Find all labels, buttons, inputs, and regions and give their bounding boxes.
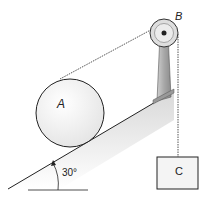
angle-label: 30° xyxy=(62,168,77,178)
cylinder-label: A xyxy=(57,98,65,110)
pulley-label: B xyxy=(175,11,182,22)
block-label: C xyxy=(175,166,183,177)
cylinder-A xyxy=(36,79,104,147)
rope-incline xyxy=(60,26,158,79)
pulley-axle xyxy=(162,31,167,36)
